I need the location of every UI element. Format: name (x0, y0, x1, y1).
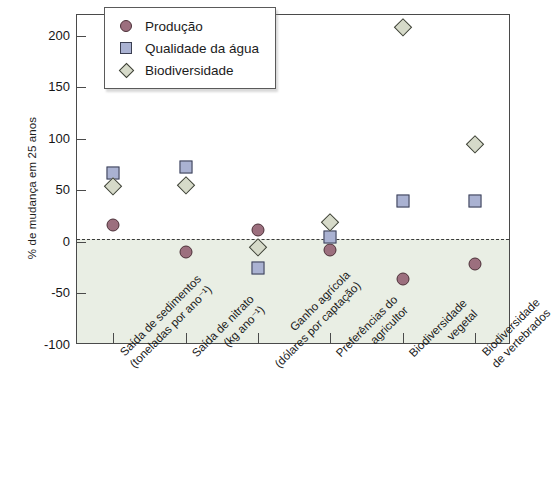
legend-label-qualidade-da-agua: Qualidade da água (137, 41, 259, 56)
y-axis-tick (77, 139, 86, 140)
legend-item-biodiversidade: Biodiversidade (115, 59, 259, 81)
zero-reference-line (77, 239, 509, 240)
legend-item-qualidade-da-agua: Qualidade da água (115, 37, 259, 59)
data-point-circle (468, 257, 481, 270)
legend: Produção Qualidade da água Biodiversidad… (104, 7, 276, 89)
legend-item-producao: Produção (115, 15, 259, 37)
legend-label-biodiversidade: Biodiversidade (137, 63, 234, 78)
y-axis-tick-labels: 200150100500-50-100 (18, 14, 70, 344)
x-axis-tick (403, 333, 404, 343)
y-axis-tick (77, 87, 86, 88)
data-point-square (179, 160, 192, 173)
diamond-marker-icon (115, 65, 137, 76)
data-point-circle (396, 273, 409, 286)
y-axis-tick-label: 150 (24, 79, 70, 94)
y-axis-tick-label: 0 (24, 233, 70, 248)
data-point-diamond (321, 213, 339, 231)
y-axis-tick-label: -50 (24, 285, 70, 300)
y-axis-tick (77, 293, 86, 294)
x-axis-tick (330, 333, 331, 343)
x-axis-tick (113, 333, 114, 343)
data-point-circle (324, 244, 337, 257)
x-axis-tick (186, 333, 187, 343)
y-axis-tick (77, 36, 86, 37)
x-axis-tick (475, 333, 476, 343)
y-axis-tick-label: 50 (24, 182, 70, 197)
x-axis-tick (258, 333, 259, 343)
circle-marker-icon (115, 20, 137, 32)
square-marker-icon (115, 42, 137, 54)
data-point-square (324, 230, 337, 243)
y-axis-tick-label: 100 (24, 130, 70, 145)
y-axis-tick-label: 200 (24, 27, 70, 42)
data-point-circle (251, 223, 264, 236)
data-point-square (468, 194, 481, 207)
data-point-circle (179, 246, 192, 259)
y-axis-tick (77, 190, 86, 191)
y-axis-tick (77, 242, 86, 243)
data-point-square (251, 261, 264, 274)
data-point-square (396, 194, 409, 207)
data-point-diamond (466, 135, 484, 153)
data-point-circle (107, 219, 120, 232)
data-point-diamond (177, 176, 195, 194)
data-point-diamond (104, 177, 122, 195)
legend-label-producao: Produção (137, 19, 203, 34)
x-axis-category-labels: Saída de sedimentos(toneladas por ano⁻¹)… (0, 344, 525, 496)
data-point-diamond (394, 19, 412, 37)
